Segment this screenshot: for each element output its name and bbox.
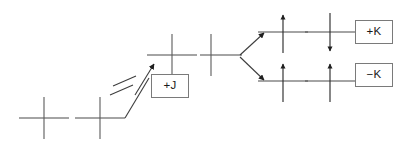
split-arrow-down [240, 57, 264, 80]
lower-branch-level-right [305, 64, 355, 102]
level-unperturbed [19, 97, 69, 139]
exchange-up-label-text: +K [367, 26, 382, 38]
split-origin-level [200, 34, 242, 76]
exchange-down-label-text: −K [367, 69, 382, 81]
diagram-canvas: +J +K −K [0, 0, 409, 146]
level-diagram [0, 0, 409, 146]
coulomb-label-text: +J [164, 80, 177, 92]
exchange-down-label-box: −K [355, 63, 393, 87]
coulomb-riser-connector [110, 64, 154, 118]
base-level [75, 97, 125, 139]
coulomb-shifted-level [147, 34, 197, 76]
upper-branch-level-left [258, 15, 308, 53]
exchange-up-label-box: +K [355, 20, 393, 44]
lower-branch-level-left [258, 64, 308, 102]
split-arrow-up [240, 33, 264, 55]
coulomb-label-box: +J [151, 74, 189, 98]
upper-branch-level-right [305, 13, 355, 51]
